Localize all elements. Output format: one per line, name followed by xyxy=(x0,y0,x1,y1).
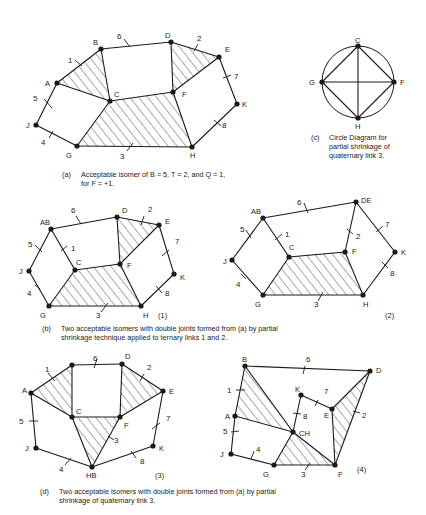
joint-C xyxy=(286,254,291,259)
joint-C xyxy=(69,414,74,419)
node-label-F: F xyxy=(127,261,132,270)
node-label-G: G xyxy=(255,300,261,309)
caption-c-line3: quaternary link 3. xyxy=(329,151,384,160)
node-label-AB: AB xyxy=(40,218,50,227)
link-label-4: 4 xyxy=(236,280,241,289)
joint-G xyxy=(319,79,324,84)
node-label-K: K xyxy=(159,444,164,453)
link-label-4: 4 xyxy=(256,445,261,454)
joint-E xyxy=(216,54,221,59)
node-label-J: J xyxy=(25,444,29,453)
link-label-1: 1 xyxy=(68,56,73,65)
link-label-8: 8 xyxy=(165,289,170,298)
node-label-D: D xyxy=(125,352,131,361)
node-label-E: E xyxy=(169,387,174,396)
node-label-CH: CH xyxy=(299,429,310,438)
joint-A xyxy=(54,80,59,85)
node-label-B: B xyxy=(93,38,98,47)
joint-J xyxy=(229,257,234,262)
joint-H xyxy=(189,144,194,149)
link-tick-1 xyxy=(75,60,82,66)
link-label-2: 2 xyxy=(356,232,361,241)
link-label-7: 7 xyxy=(324,387,329,396)
kinematic-chain-figure: 16275438ABCDEFGHJKCGFH62517438ABDECFJGHK… xyxy=(0,0,426,515)
joint-D xyxy=(114,214,119,219)
node-label-H: H xyxy=(190,151,195,160)
caption-a: (a) Acceptable isomer of B = 5, T = 2, a… xyxy=(62,170,282,190)
hatched-link-CFHG xyxy=(77,92,192,147)
joint-B xyxy=(242,363,247,368)
link-label-1: 1 xyxy=(227,386,232,395)
edge-B-D xyxy=(72,364,122,365)
node-label-F: F xyxy=(352,247,357,256)
edge-A-J xyxy=(31,393,36,448)
link-label-8: 8 xyxy=(140,457,145,466)
caption-b-tag: (b) xyxy=(42,324,51,333)
joint-J xyxy=(33,445,38,450)
joint-B xyxy=(69,362,74,367)
node-label-1: (1) xyxy=(158,311,168,320)
node-label-2: (2) xyxy=(385,311,395,320)
caption-b-line1: Two acceptable isomers with double joint… xyxy=(61,324,278,333)
node-label-F: F xyxy=(182,90,187,99)
node-label-E: E xyxy=(324,411,329,420)
edge-E-K xyxy=(159,225,174,274)
node-label-E: E xyxy=(225,45,230,54)
node-label-C: C xyxy=(114,90,120,99)
caption-a-tag: (a) xyxy=(62,170,71,179)
link-label-1: 1 xyxy=(45,365,50,374)
diagrams-layer: 16275438ABCDEFGHJKCGFH62517438ABDECFJGHK… xyxy=(19,31,406,480)
node-label-D: D xyxy=(165,31,171,40)
link-label-6: 6 xyxy=(297,198,302,207)
link-label-7: 7 xyxy=(175,237,180,246)
node-label-J: J xyxy=(220,450,224,459)
caption-c-line2: partial shrinkage of xyxy=(329,142,390,151)
node-label-A: A xyxy=(45,79,50,88)
joint-G xyxy=(46,303,51,308)
joint-AB xyxy=(48,226,53,231)
node-label-G: G xyxy=(263,470,269,479)
diagram-b2-isomer: 65127438ABDECFJGHK(2) xyxy=(223,196,406,320)
node-label-F: F xyxy=(338,470,343,479)
node-label-J: J xyxy=(26,121,30,130)
caption-c: (c) Circle Diagram for partial shrinkage… xyxy=(311,133,421,163)
link-label-4: 4 xyxy=(27,289,32,298)
node-label-H: H xyxy=(143,311,148,320)
link-tick-6 xyxy=(304,203,308,213)
caption-b: (b) Two acceptable isomers with double j… xyxy=(42,324,362,344)
joint-A xyxy=(28,390,33,395)
link-label-5: 5 xyxy=(223,427,228,436)
node-label-G: G xyxy=(66,151,72,160)
joint-E xyxy=(156,222,161,227)
joint-J xyxy=(33,122,38,127)
link-tick-6 xyxy=(76,216,81,224)
joint-K xyxy=(234,101,239,106)
joint-HG xyxy=(89,464,94,469)
link-label-1: 1 xyxy=(285,230,290,239)
link-label-5: 5 xyxy=(28,240,33,249)
edge-AB-D xyxy=(51,217,117,229)
hatched-link-ABC xyxy=(31,365,72,417)
link-label-3: 3 xyxy=(301,470,306,479)
joint-D xyxy=(119,361,124,366)
node-label-E: E xyxy=(165,217,170,226)
joint-D xyxy=(367,368,372,373)
link-tick-4 xyxy=(251,451,254,459)
hatched-link-CFHG xyxy=(49,264,141,306)
edge-A-J xyxy=(36,83,57,125)
link-tick-5 xyxy=(231,431,239,432)
joint-F xyxy=(342,249,347,254)
node-label-D: D xyxy=(122,206,128,215)
node-label-K: K xyxy=(401,248,406,257)
edge-J-HG xyxy=(36,448,92,467)
link-label-6: 6 xyxy=(117,32,122,41)
hatched-link-DEF xyxy=(120,364,163,417)
link-label-2: 2 xyxy=(362,411,367,420)
node-label-3: (3) xyxy=(155,471,165,480)
joint-F xyxy=(391,79,396,84)
link-label-7: 7 xyxy=(234,72,239,81)
caption-c-tag: (c) xyxy=(311,133,319,142)
diagram-b1-isomer: 62517438ABDECFJGHK(1) xyxy=(19,205,185,320)
joint-E xyxy=(329,406,334,411)
link-label-8: 8 xyxy=(390,269,395,278)
